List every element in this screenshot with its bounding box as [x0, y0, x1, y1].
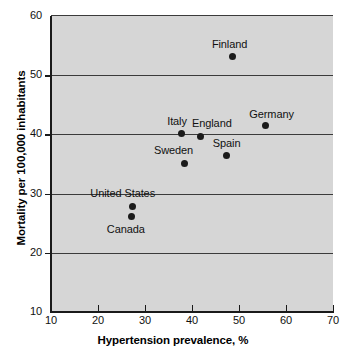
x-tick-label-50: 50: [219, 314, 259, 326]
datapoint-canada: [128, 213, 135, 220]
datapoint-sweden: [181, 160, 188, 167]
x-tick-60: [286, 305, 287, 312]
datapoint-united-states: [129, 203, 136, 210]
x-tick-50: [239, 305, 240, 312]
datapoint-germany: [262, 122, 269, 129]
x-tick-label-30: 30: [125, 314, 165, 326]
datapoint-england: [197, 133, 204, 140]
plot-area: FinlandGermanyEnglandItalySpainSwedenUni…: [51, 16, 333, 312]
x-tick-label-40: 40: [172, 314, 212, 326]
datapoint-label-canada: Canada: [107, 223, 145, 235]
y-tick-30: [45, 194, 51, 195]
datapoint-label-germany: Germany: [249, 108, 294, 120]
gridline-y-20: [51, 253, 333, 254]
x-tick-20: [98, 305, 99, 312]
x-tick-label-60: 60: [266, 314, 306, 326]
scatter-chart-figure: FinlandGermanyEnglandItalySpainSwedenUni…: [0, 0, 346, 356]
y-tick-50: [45, 75, 51, 76]
gridline-y-40: [51, 134, 333, 135]
x-axis-label: Hypertension prevalence, %: [0, 334, 346, 346]
datapoint-spain: [223, 152, 230, 159]
datapoint-label-sweden: Sweden: [154, 144, 193, 156]
datapoint-finland: [229, 53, 236, 60]
y-tick-label-10: 10: [0, 305, 42, 317]
datapoint-label-spain: Spain: [213, 137, 241, 149]
axis-line-top: [51, 15, 333, 16]
x-tick-label-70: 70: [313, 314, 346, 326]
x-tick-70: [333, 305, 334, 312]
x-tick-10: [51, 305, 52, 312]
gridline-y-50: [51, 75, 333, 76]
datapoint-label-finland: Finland: [212, 38, 247, 50]
datapoint-label-italy: Italy: [167, 115, 187, 127]
x-tick-30: [145, 305, 146, 312]
datapoint-label-united-states: United States: [90, 187, 155, 199]
y-tick-20: [45, 253, 51, 254]
x-tick-label-20: 20: [78, 314, 118, 326]
y-axis-label: Mortality per 100,000 inhabitants: [15, 43, 27, 273]
datapoint-italy: [178, 130, 185, 137]
datapoint-label-england: England: [192, 117, 232, 129]
y-tick-40: [45, 134, 51, 135]
y-tick-label-60: 60: [0, 9, 42, 21]
y-axis-line: [50, 16, 52, 313]
x-tick-40: [192, 305, 193, 312]
